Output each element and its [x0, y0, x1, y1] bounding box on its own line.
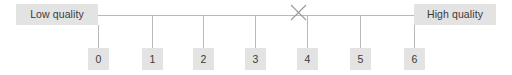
scale-point-label-0: 0	[96, 53, 102, 65]
scale-axis-line	[98, 15, 414, 16]
tick-line-4	[307, 16, 308, 48]
anchor-label-low: Low quality	[16, 4, 98, 25]
anchor-label-high: High quality	[414, 4, 496, 25]
scale-point-6[interactable]: 6	[404, 48, 425, 70]
scale-point-label-6: 6	[412, 53, 418, 65]
scale-point-label-2: 2	[201, 53, 207, 65]
scale-point-5[interactable]: 5	[350, 48, 371, 70]
tick-line-5	[360, 16, 361, 48]
tick-line-0	[98, 25, 99, 48]
rating-scale-widget: Low quality High quality 0 1 2 3 4 5 6	[0, 0, 512, 75]
scale-point-label-5: 5	[358, 53, 364, 65]
scale-point-3[interactable]: 3	[245, 48, 266, 70]
scale-point-2[interactable]: 2	[193, 48, 214, 70]
scale-point-1[interactable]: 1	[142, 48, 163, 70]
tick-line-3	[255, 16, 256, 48]
scale-point-label-3: 3	[253, 53, 259, 65]
scale-point-4[interactable]: 4	[297, 48, 318, 70]
tick-line-2	[203, 16, 204, 48]
tick-line-6	[414, 25, 415, 48]
scale-point-label-1: 1	[150, 53, 156, 65]
scale-point-0[interactable]: 0	[88, 48, 109, 70]
scale-point-label-4: 4	[305, 53, 311, 65]
tick-line-1	[152, 16, 153, 48]
x-mark-icon	[290, 4, 307, 21]
